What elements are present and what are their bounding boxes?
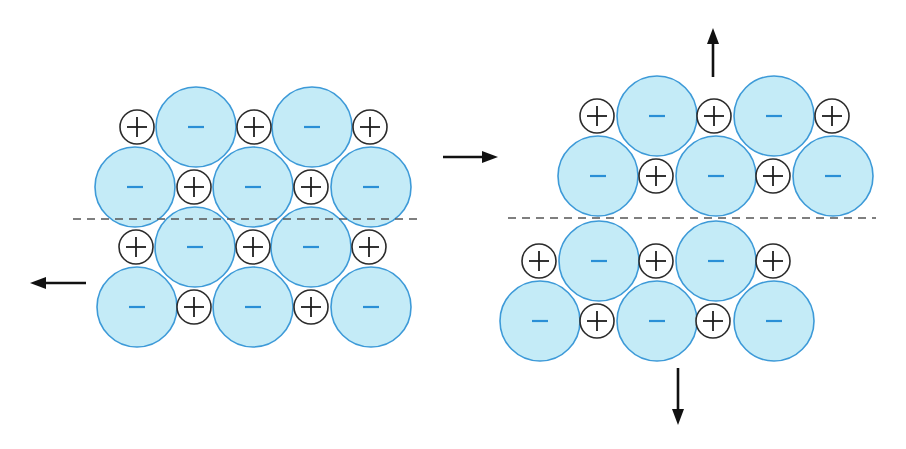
- anion-circle: [272, 87, 352, 167]
- arrowhead-icon: [30, 277, 46, 289]
- anion-circle: [558, 136, 638, 216]
- cation-circle: [177, 170, 211, 204]
- anion-circle: [331, 147, 411, 227]
- anion-circle: [97, 267, 177, 347]
- cation-circle: [352, 230, 386, 264]
- transition-arrow-right: [443, 151, 498, 163]
- anion-circle: [676, 221, 756, 301]
- force-arrow-down: [672, 368, 684, 425]
- arrowhead-icon: [672, 409, 684, 425]
- cation-circle: [815, 99, 849, 133]
- anion-circle: [331, 267, 411, 347]
- arrowhead-icon: [707, 28, 719, 44]
- cation-circle: [756, 159, 790, 193]
- cation-circle: [580, 99, 614, 133]
- anion-circle: [734, 76, 814, 156]
- cation-circle: [177, 290, 211, 324]
- force-arrow-up: [707, 28, 719, 77]
- cation-circle: [580, 304, 614, 338]
- cation-circle: [522, 244, 556, 278]
- anion-circle: [500, 281, 580, 361]
- anion-circle: [559, 221, 639, 301]
- anion-circle: [734, 281, 814, 361]
- force-arrow-left: [30, 277, 86, 289]
- cation-circle: [756, 244, 790, 278]
- cation-circle: [639, 159, 673, 193]
- cation-circle: [353, 110, 387, 144]
- cation-circle: [120, 110, 154, 144]
- anion-circle: [155, 207, 235, 287]
- cation-circle: [237, 110, 271, 144]
- cation-circle: [294, 170, 328, 204]
- ionic-crystal-diagram: [0, 0, 906, 449]
- cation-circle: [697, 99, 731, 133]
- anion-circle: [213, 147, 293, 227]
- anion-circle: [676, 136, 756, 216]
- left-lattice-shear: [73, 87, 420, 347]
- anion-circle: [95, 147, 175, 227]
- anion-circle: [213, 267, 293, 347]
- cation-circle: [236, 230, 270, 264]
- cation-circle: [639, 244, 673, 278]
- anion-circle: [793, 136, 873, 216]
- anion-circle: [617, 76, 697, 156]
- cation-circle: [119, 230, 153, 264]
- cation-circle: [696, 304, 730, 338]
- anion-circle: [617, 281, 697, 361]
- arrowhead-icon: [482, 151, 498, 163]
- cation-circle: [294, 290, 328, 324]
- anion-circle: [156, 87, 236, 167]
- right-lattice-separated: [500, 76, 876, 361]
